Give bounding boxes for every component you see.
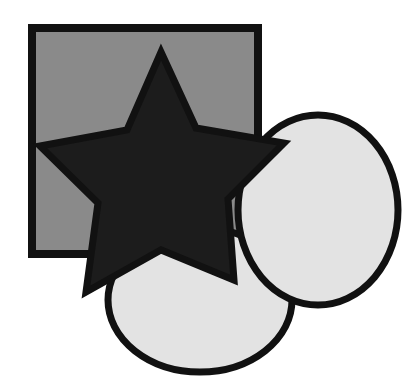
diagram-svg	[0, 0, 414, 392]
shapes-diagram	[0, 0, 414, 392]
